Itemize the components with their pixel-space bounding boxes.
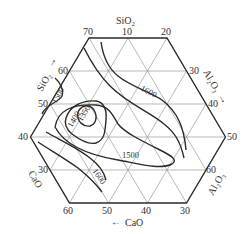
al2o3-tick: 30 bbox=[189, 65, 199, 76]
isotherm-label-1500-left: 1500 bbox=[49, 85, 66, 105]
al2o3-tick: 40 bbox=[208, 98, 218, 109]
bottom-arrow-icon: ← bbox=[111, 216, 121, 227]
isotherm-label-1600-lower: 1600 bbox=[90, 166, 108, 186]
sio2-tick: 50 bbox=[38, 98, 48, 109]
sio2-arrow-icon: → bbox=[44, 55, 59, 69]
bottom-axis-label: CaO bbox=[125, 217, 143, 228]
ternary-phase-diagram: SiO₂ 70 10 20 60 50 40 SiO₂ → 30 40 50 A… bbox=[0, 0, 243, 234]
bottom-tick: 60 bbox=[63, 205, 73, 216]
isotherm-label-1500-center: 1500 bbox=[122, 150, 139, 160]
sio2-tick: 40 bbox=[18, 131, 28, 142]
top-tick: 10 bbox=[122, 26, 132, 37]
sio2-side-label: SiO₂ bbox=[34, 71, 53, 93]
top-tick: 70 bbox=[83, 26, 93, 37]
sio2-tick: 60 bbox=[58, 65, 68, 76]
top-axis-label: SiO₂ bbox=[116, 15, 135, 26]
bottom-tick: 30 bbox=[180, 205, 190, 216]
bottom-tick: 50 bbox=[102, 205, 112, 216]
grid bbox=[31, 38, 226, 203]
al2o3-upper-label: Al₂O₃ bbox=[201, 68, 223, 94]
al2o3-lower-tick: 60 bbox=[206, 164, 216, 175]
al2o3-tick: 50 bbox=[227, 131, 237, 142]
bottom-tick: 40 bbox=[141, 205, 151, 216]
top-tick: 20 bbox=[161, 26, 171, 37]
al2o3-arrow-icon: → bbox=[216, 92, 231, 106]
